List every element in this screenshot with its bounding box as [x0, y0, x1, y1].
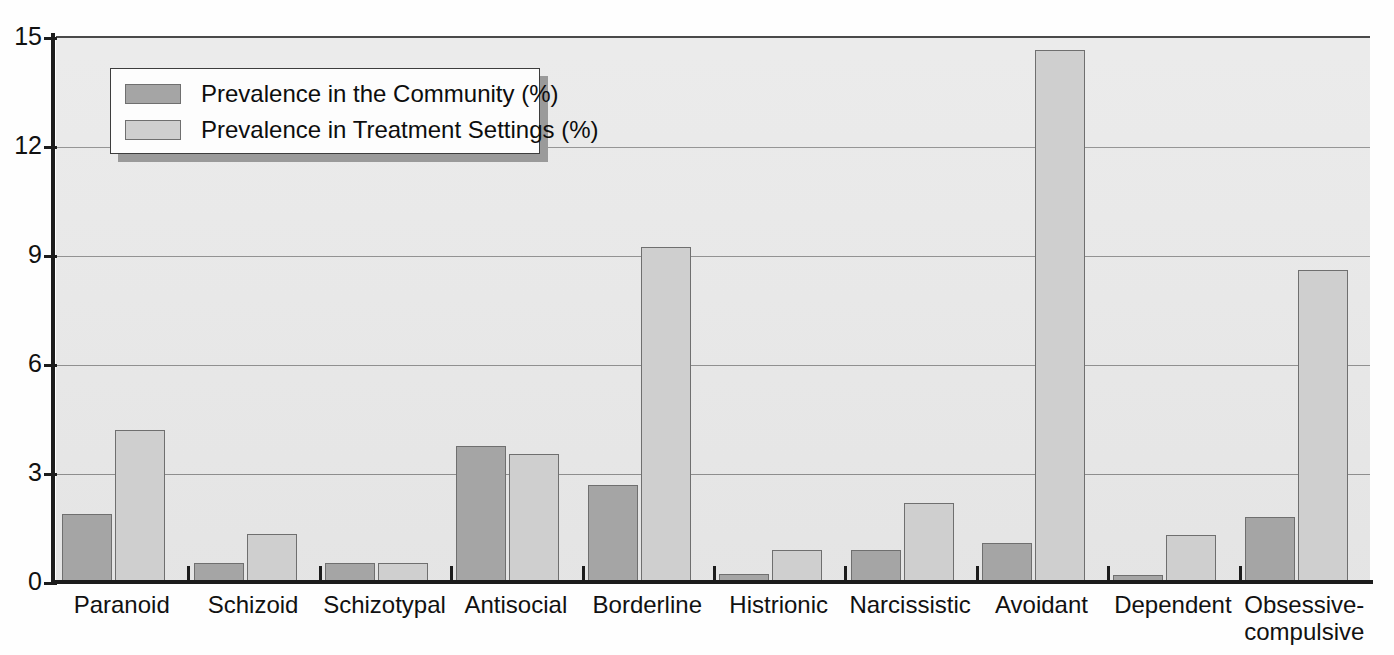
- legend-label-treatment: Prevalence in Treatment Settings (%): [201, 116, 599, 144]
- x-tick-mark-5: [713, 566, 716, 580]
- y-axis-line: [51, 33, 55, 585]
- bar-treatment-9: [1298, 270, 1348, 582]
- bar-treatment-6: [904, 503, 954, 583]
- bar-treatment-7: [1035, 50, 1085, 582]
- x-tick-mark-3: [450, 566, 453, 580]
- gridline-6: [56, 365, 1370, 366]
- y-tick-label-3: 3: [0, 460, 42, 485]
- bar-treatment-5: [772, 550, 822, 583]
- x-tick-mark-4: [582, 566, 585, 580]
- x-axis-line: [51, 580, 1373, 584]
- x-tick-mark-7: [976, 566, 979, 580]
- y-tick-label-15: 15: [0, 24, 42, 49]
- x-tick-label-9: Obsessive-compulsive: [1239, 592, 1370, 646]
- y-tick-mark-12: [44, 146, 57, 149]
- x-tick-mark-8: [1107, 566, 1110, 580]
- bar-community-6: [851, 550, 901, 583]
- x-tick-label-5: Histrionic: [713, 592, 844, 619]
- y-tick-mark-15: [44, 37, 57, 40]
- bar-treatment-3: [509, 454, 559, 583]
- x-tick-label-1: Schizoid: [187, 592, 318, 619]
- y-tick-mark-9: [44, 255, 57, 258]
- bar-treatment-1: [247, 534, 297, 583]
- legend-swatch-community-icon: [125, 84, 181, 104]
- gridline-3: [56, 474, 1370, 475]
- bar-community-0: [62, 514, 112, 583]
- bar-treatment-4: [641, 247, 691, 583]
- bar-community-3: [456, 446, 506, 582]
- bar-treatment-0: [115, 430, 165, 583]
- x-tick-label-6: Narcissistic: [844, 592, 975, 619]
- x-tick-mark-1: [187, 566, 190, 580]
- y-tick-mark-6: [44, 364, 57, 367]
- legend-swatch-treatment-icon: [125, 120, 181, 140]
- bar-chart: 03691215 ParanoidSchizoidSchizotypalAnti…: [0, 0, 1394, 655]
- x-tick-mark-2: [319, 566, 322, 580]
- legend-item-treatment: Prevalence in Treatment Settings (%): [125, 115, 599, 145]
- x-tick-label-7: Avoidant: [976, 592, 1107, 619]
- bar-community-7: [982, 543, 1032, 583]
- bar-community-9: [1245, 517, 1295, 582]
- x-tick-mark-6: [844, 566, 847, 580]
- x-tick-label-0: Paranoid: [56, 592, 187, 619]
- chart-legend: Prevalence in the Community (%) Prevalen…: [110, 68, 540, 154]
- x-tick-label-3: Antisocial: [450, 592, 581, 619]
- x-tick-label-8: Dependent: [1107, 592, 1238, 619]
- legend-item-community: Prevalence in the Community (%): [125, 79, 558, 109]
- y-tick-mark-0: [44, 582, 57, 585]
- x-tick-label-4: Borderline: [582, 592, 713, 619]
- x-tick-label-2: Schizotypal: [319, 592, 450, 619]
- y-tick-mark-3: [44, 473, 57, 476]
- y-tick-label-0: 0: [0, 569, 42, 594]
- plot-top-frame: [56, 36, 1370, 38]
- bar-community-4: [588, 485, 638, 583]
- legend-label-community: Prevalence in the Community (%): [201, 80, 558, 108]
- bar-treatment-8: [1166, 535, 1216, 582]
- y-tick-label-12: 12: [0, 133, 42, 158]
- gridline-9: [56, 256, 1370, 257]
- y-tick-label-6: 6: [0, 351, 42, 376]
- x-tick-mark-9: [1239, 566, 1242, 580]
- y-tick-label-9: 9: [0, 242, 42, 267]
